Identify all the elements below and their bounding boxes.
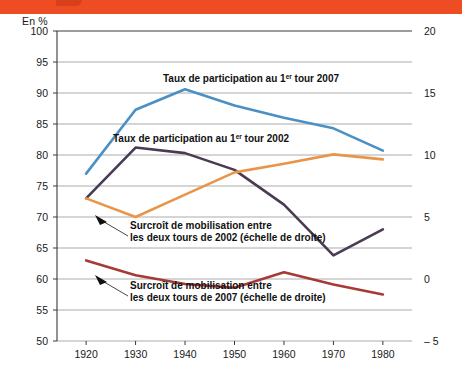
svg-text:Taux de participation au 1er t: Taux de participation au 1er tour 2007 bbox=[163, 73, 339, 84]
data-series bbox=[86, 89, 383, 294]
left-axis-tick-labels: 10095908580757065605550 bbox=[30, 25, 48, 347]
left-axis-tick-label: 90 bbox=[36, 87, 48, 99]
annotation-blue-text: Taux de participation au 1 bbox=[163, 73, 286, 84]
annotation-purple-text: Taux de participation au 1 bbox=[113, 133, 236, 144]
right-axis-tick-label: 20 bbox=[424, 25, 436, 37]
x-axis-tick-label: 1970 bbox=[322, 348, 346, 360]
left-axis-tick-label: 60 bbox=[36, 273, 48, 285]
x-axis-tick-label: 1960 bbox=[272, 348, 296, 360]
annotation-darkred-line2: les deux tours de 2007 (échelle de droit… bbox=[130, 292, 326, 303]
right-axis-tick-label: 5 bbox=[424, 211, 430, 223]
chart-svg: 10095908580757065605550 20151050– 5 1920… bbox=[0, 0, 462, 366]
series-line-0 bbox=[86, 89, 383, 173]
x-axis-tick-label: 1980 bbox=[371, 348, 395, 360]
annotation-purple-tail: tour 2002 bbox=[242, 133, 290, 144]
right-axis-tick-label: 10 bbox=[424, 149, 436, 161]
right-axis-tick-label: 0 bbox=[424, 273, 430, 285]
left-axis-tick-label: 50 bbox=[36, 335, 48, 347]
annotation-orange-line2: les deux tours de 2002 (échelle de droit… bbox=[130, 232, 326, 243]
x-axis-tick-labels: 1920193019401950196019701980 bbox=[74, 341, 394, 360]
annotation-purple: Taux de participation au 1er tour 2002 bbox=[113, 133, 289, 144]
annotation-blue-tail: tour 2007 bbox=[292, 73, 340, 84]
left-axis-tick-label: 55 bbox=[36, 304, 48, 316]
right-axis-tick-labels: 20151050– 5 bbox=[424, 25, 439, 347]
annotation-darkred-line1: Surcroît de mobilisation entre bbox=[130, 280, 272, 291]
left-axis-tick-label: 95 bbox=[36, 56, 48, 68]
left-axis-tick-label: 65 bbox=[36, 242, 48, 254]
chart-area: 10095908580757065605550 20151050– 5 1920… bbox=[0, 0, 462, 366]
right-axis-tick-label: – 5 bbox=[424, 335, 439, 347]
annotation-blue: Taux de participation au 1er tour 2007 bbox=[163, 73, 339, 84]
x-axis-tick-label: 1950 bbox=[223, 348, 247, 360]
annotation-orange: Surcroît de mobilisation entre les deux … bbox=[95, 215, 326, 243]
x-axis-tick-label: 1940 bbox=[173, 348, 197, 360]
svg-text:Taux de participation au 1er t: Taux de participation au 1er tour 2002 bbox=[113, 133, 289, 144]
annotation-orange-line1: Surcroît de mobilisation entre bbox=[130, 220, 272, 231]
left-axis-tick-label: 75 bbox=[36, 180, 48, 192]
left-axis-tick-label: 100 bbox=[30, 25, 48, 37]
x-axis-tick-label: 1920 bbox=[74, 348, 98, 360]
right-axis-tick-label: 15 bbox=[424, 87, 436, 99]
left-axis-tick-label: 70 bbox=[36, 211, 48, 223]
x-axis-tick-label: 1930 bbox=[124, 348, 148, 360]
left-axis-tick-label: 80 bbox=[36, 149, 48, 161]
left-axis-tick-label: 85 bbox=[36, 118, 48, 130]
